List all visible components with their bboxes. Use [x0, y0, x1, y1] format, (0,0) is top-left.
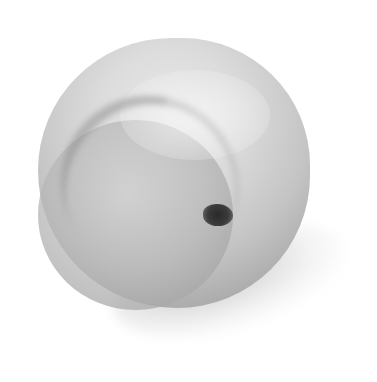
- peach-photo: [0, 0, 377, 382]
- peach-stem-cavity: [203, 204, 233, 226]
